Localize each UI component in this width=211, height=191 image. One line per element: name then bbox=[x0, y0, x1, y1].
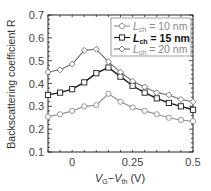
y-tick-label: 0.4 bbox=[29, 78, 44, 90]
x-axis-label: VG−Vth (V) bbox=[95, 172, 145, 185]
y-tick-label: 0.6 bbox=[29, 32, 44, 44]
y-tick-label: 0.1 bbox=[29, 146, 44, 158]
data-series bbox=[45, 46, 196, 124]
y-tick-label: 0.5 bbox=[29, 55, 44, 67]
y-tick-label: 0.7 bbox=[29, 9, 44, 21]
y-tick-label: 0.3 bbox=[29, 100, 44, 112]
legend: Lch = 10 nmLch = 15 nmLch = 20 nm bbox=[111, 18, 191, 56]
y-tick-labels: 0.10.20.30.40.50.60.7 bbox=[29, 9, 44, 158]
x-tick-labels: 00.250.5 bbox=[69, 156, 201, 168]
x-tick-label: 0 bbox=[69, 156, 75, 168]
y-axis-label: Backscattering coefficient R bbox=[5, 19, 17, 149]
y-tick-label: 0.2 bbox=[29, 123, 44, 135]
backscattering-chart: 0.10.20.30.40.50.60.7 00.250.5 Backscatt… bbox=[0, 0, 211, 191]
x-tick-label: 0.25 bbox=[122, 156, 143, 168]
x-tick-label: 0.5 bbox=[185, 156, 200, 168]
